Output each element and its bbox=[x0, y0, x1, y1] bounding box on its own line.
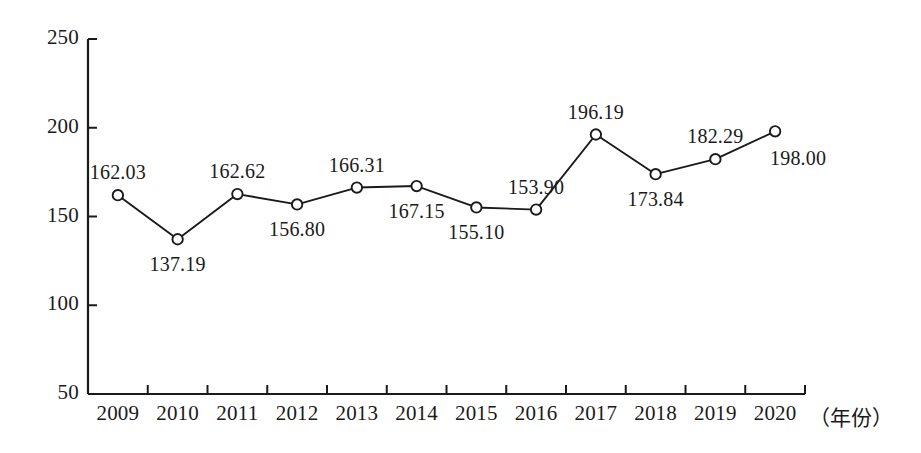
data-marker bbox=[232, 189, 242, 199]
data-marker bbox=[770, 126, 780, 136]
y-tick-label: 100 bbox=[47, 291, 79, 316]
data-marker bbox=[292, 199, 302, 209]
x-tick-marks bbox=[88, 385, 805, 394]
data-marker bbox=[172, 234, 182, 244]
data-point-label: 198.00 bbox=[753, 147, 843, 170]
y-tick-label: 50 bbox=[58, 380, 79, 405]
data-point-label: 162.62 bbox=[192, 160, 282, 183]
x-tick-label: 2020 bbox=[735, 401, 815, 426]
data-marker bbox=[471, 202, 481, 212]
data-marker bbox=[650, 169, 660, 179]
data-point-label: 155.10 bbox=[431, 221, 521, 244]
y-tick-label: 150 bbox=[47, 203, 79, 228]
data-marker bbox=[710, 154, 720, 164]
data-point-label: 166.31 bbox=[312, 154, 402, 177]
data-point-label: 162.03 bbox=[73, 161, 163, 184]
data-point-label: 137.19 bbox=[133, 253, 223, 276]
data-marker bbox=[411, 181, 421, 191]
data-point-label: 196.19 bbox=[551, 101, 641, 124]
y-tick-label: 200 bbox=[47, 114, 79, 139]
data-point-label: 167.15 bbox=[372, 200, 462, 223]
y-tick-label: 250 bbox=[47, 25, 79, 50]
data-point-label: 182.29 bbox=[670, 125, 760, 148]
data-point-label: 153.90 bbox=[491, 176, 581, 199]
data-marker bbox=[352, 182, 362, 192]
x-axis-title: （年份） bbox=[809, 401, 893, 431]
y-tick-marks bbox=[88, 39, 97, 394]
data-marker bbox=[591, 129, 601, 139]
data-marker bbox=[113, 190, 123, 200]
data-point-label: 173.84 bbox=[611, 188, 701, 211]
data-point-label: 156.80 bbox=[252, 218, 342, 241]
line-chart: 50100150200250 2009201020112012201320142… bbox=[0, 0, 921, 453]
data-marker bbox=[531, 204, 541, 214]
